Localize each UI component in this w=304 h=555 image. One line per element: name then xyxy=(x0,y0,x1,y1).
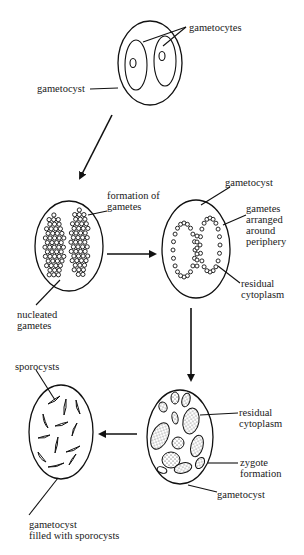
gametocyst-life-cycle-diagram: gametocytes gametocyst formation of game… xyxy=(0,0,304,555)
label-gametocyst-stage1: gametocyst xyxy=(37,83,85,94)
label-nucleated-gametes: nucleated gametes xyxy=(17,309,57,331)
label-gametes-around-periphery: gametes arranged around periphery xyxy=(246,203,286,247)
label-gametocytes: gametocytes xyxy=(189,22,241,33)
label-sporocysts: sporocysts xyxy=(15,361,59,372)
arrow-stage1-to-stage2 xyxy=(80,115,112,178)
label-formation-of-gametes: formation of gametes xyxy=(107,190,160,212)
label-gametocyst-stage3: gametocyst xyxy=(225,177,273,188)
label-gametocyst-filled: gametocyst filled with sporocysts xyxy=(29,519,119,541)
label-residual-cytoplasm-stage4: residual cytoplasm xyxy=(239,407,282,429)
stage-2-gametocyst xyxy=(35,201,107,305)
stage-3-gametocyst xyxy=(162,187,246,298)
label-gametocyst-stage4: gametocyst xyxy=(217,489,265,500)
stage-4-gametocyst xyxy=(147,390,238,492)
label-residual-cytoplasm-stage3: residual cytoplasm xyxy=(241,278,284,300)
label-zygote-formation: zygote formation xyxy=(240,457,281,479)
stage-1-gametocyst xyxy=(90,21,186,105)
stage-5-gametocyst xyxy=(29,370,93,515)
